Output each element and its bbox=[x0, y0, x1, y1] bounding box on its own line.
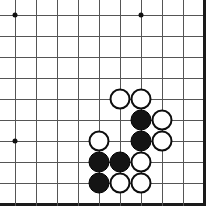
white-stone[interactable] bbox=[110, 89, 131, 110]
grid-line-vertical-3 bbox=[78, 0, 79, 206]
grid-line-vertical-8 bbox=[183, 0, 184, 206]
black-stone[interactable] bbox=[89, 152, 110, 173]
grid-line-horizontal-0 bbox=[0, 15, 206, 16]
grid-line-vertical-2 bbox=[57, 0, 58, 206]
go-board-panel bbox=[0, 0, 212, 216]
goban-grid[interactable] bbox=[0, 0, 212, 216]
grid-line-vertical-9 bbox=[203, 0, 206, 206]
grid-line-vertical-7 bbox=[162, 0, 163, 206]
grid-line-horizontal-5 bbox=[0, 120, 206, 121]
white-stone[interactable] bbox=[131, 173, 152, 194]
grid-line-horizontal-9 bbox=[0, 203, 206, 206]
white-stone[interactable] bbox=[131, 89, 152, 110]
grid-line-vertical-0 bbox=[15, 0, 16, 206]
black-stone[interactable] bbox=[110, 152, 131, 173]
grid-line-vertical-1 bbox=[36, 0, 37, 206]
white-stone[interactable] bbox=[89, 131, 110, 152]
black-stone[interactable] bbox=[131, 131, 152, 152]
white-stone[interactable] bbox=[131, 152, 152, 173]
grid-line-horizontal-4 bbox=[0, 99, 206, 100]
black-stone[interactable] bbox=[131, 110, 152, 131]
grid-line-horizontal-3 bbox=[0, 78, 206, 79]
black-stone[interactable] bbox=[89, 173, 110, 194]
grid-line-horizontal-1 bbox=[0, 36, 206, 37]
star-point-icon bbox=[13, 139, 18, 144]
white-stone[interactable] bbox=[110, 173, 131, 194]
grid-line-horizontal-2 bbox=[0, 57, 206, 58]
star-point-icon bbox=[13, 13, 18, 18]
white-stone[interactable] bbox=[152, 131, 173, 152]
white-stone[interactable] bbox=[152, 110, 173, 131]
star-point-icon bbox=[139, 13, 144, 18]
